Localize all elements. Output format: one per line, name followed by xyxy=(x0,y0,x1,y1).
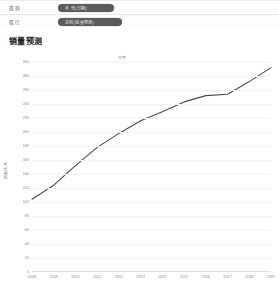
grid-line xyxy=(32,160,271,161)
line-series xyxy=(32,62,271,272)
shelf-pill-columns[interactable]: 年 份(日期) xyxy=(58,4,114,12)
y-axis-tick-label: 20 xyxy=(25,256,29,260)
chart-card: 销量预测 日期 销量预测 020406080100120140160180200… xyxy=(0,27,279,293)
x-axis-tick-label: 2015 xyxy=(180,275,188,279)
x-axis-tick-label: 2019 xyxy=(267,275,275,279)
x-axis-tick-label: 2014 xyxy=(158,275,166,279)
y-axis-tick-label: 80 xyxy=(25,214,29,218)
grid-line xyxy=(32,202,271,203)
y-axis-tick-label: 100 xyxy=(23,200,29,204)
y-axis-title: 销量预测 xyxy=(3,162,8,179)
x-axis-tick-label: 2013 xyxy=(136,275,144,279)
y-axis-tick-label: 180 xyxy=(23,144,29,148)
x-axis-tick-label: 2017 xyxy=(223,275,231,279)
grid-line xyxy=(32,244,271,245)
y-axis-tick-label: 140 xyxy=(23,172,29,176)
grid-line xyxy=(32,62,271,63)
grid-line xyxy=(32,90,271,91)
y-axis-tick-label: 160 xyxy=(23,158,29,162)
grid-line xyxy=(32,230,271,231)
y-axis-tick-label: 120 xyxy=(23,186,29,190)
x-axis-tick-label: 2018 xyxy=(245,275,253,279)
y-axis-tick-label: 240 xyxy=(23,102,29,106)
filter-shelf: 筛列 年 份(日期) 筛行 总和(销量预测) xyxy=(0,0,279,29)
grid-line xyxy=(32,104,271,105)
grid-line xyxy=(32,76,271,77)
shelf-row-columns[interactable]: 筛列 年 份(日期) xyxy=(0,0,279,15)
y-axis-tick-label: 200 xyxy=(23,130,29,134)
grid-line xyxy=(32,132,271,133)
shelf-drop-area-columns[interactable] xyxy=(114,1,279,14)
y-axis-tick-label: 60 xyxy=(25,228,29,232)
grid-line xyxy=(32,188,271,189)
grid-line xyxy=(32,146,271,147)
x-axis-tick-label: 2010 xyxy=(71,275,79,279)
x-axis-tick-label: 2012 xyxy=(115,275,123,279)
grid-line xyxy=(32,258,271,259)
shelf-label-columns: 筛列 xyxy=(0,5,58,11)
grid-line xyxy=(32,118,271,119)
grid-line xyxy=(32,174,271,175)
grid-line xyxy=(32,216,271,217)
y-axis-tick-label: 0 xyxy=(27,270,29,274)
y-axis-tick-label: 280 xyxy=(23,74,29,78)
y-axis-tick-label: 220 xyxy=(23,116,29,120)
y-axis-tick-label: 300 xyxy=(23,60,29,64)
chart-app-window: 筛列 年 份(日期) 筛行 总和(销量预测) 销量预测 日期 销量预测 0204… xyxy=(0,0,279,293)
x-axis-tick-label: 2008 xyxy=(28,275,36,279)
shelf-pill-rows[interactable]: 总和(销量预测) xyxy=(58,18,122,26)
chart-title: 销量预测 xyxy=(9,35,43,46)
shelf-label-rows: 筛行 xyxy=(0,19,58,25)
y-axis-tick-label: 260 xyxy=(23,88,29,92)
y-axis-tick-label: 40 xyxy=(25,242,29,246)
x-axis-tick-label: 2016 xyxy=(202,275,210,279)
chart-legend: 日期 xyxy=(118,55,127,60)
x-axis-tick-label: 2011 xyxy=(93,275,101,279)
chart-plot-area: 0204060801001201401601802002202402602803… xyxy=(32,62,271,272)
x-axis-tick-label: 2009 xyxy=(49,275,57,279)
